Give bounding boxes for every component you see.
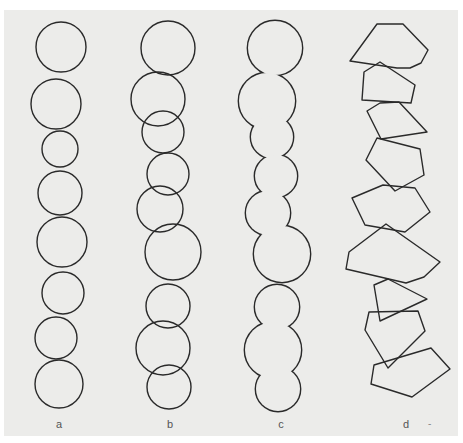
label-c: c: [271, 418, 291, 430]
circle: [36, 22, 86, 72]
circle: [42, 131, 78, 167]
label-a: a: [49, 418, 69, 430]
polygon: [367, 102, 427, 139]
panel-c-circle-union-outline: [239, 21, 310, 411]
polygon: [352, 185, 430, 232]
label-d: d: [396, 418, 416, 430]
circle: [35, 360, 83, 408]
circle: [37, 217, 87, 267]
circle: [145, 224, 201, 280]
circle: [136, 321, 190, 375]
panel-a-separate-circles: [31, 22, 87, 408]
polygon: [346, 224, 440, 283]
polygon: [371, 348, 450, 397]
circle: [254, 226, 310, 282]
polygon: [350, 24, 428, 68]
circle: [31, 79, 81, 129]
figure-drawing: [0, 0, 463, 443]
circle: [142, 111, 184, 153]
stray-mark: -: [428, 418, 431, 429]
circle: [38, 171, 82, 215]
panel-d-polygons: [346, 24, 450, 397]
circle: [131, 72, 185, 126]
panel-b-overlapping-circles: [131, 21, 201, 409]
label-b: b: [160, 418, 180, 430]
polygon: [366, 138, 424, 191]
circle: [42, 272, 84, 314]
circle: [35, 317, 77, 359]
circle: [147, 365, 191, 409]
circle: [248, 21, 302, 75]
circle: [141, 21, 195, 75]
circle: [255, 155, 297, 197]
circle: [251, 116, 293, 158]
circle: [147, 153, 189, 195]
circle: [256, 367, 300, 411]
